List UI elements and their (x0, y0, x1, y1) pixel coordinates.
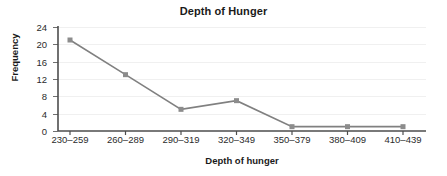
chart-figure: Depth of Hunger Frequency 04812162024 23… (0, 0, 447, 176)
x-axis-label: Depth of hunger (58, 155, 426, 166)
axes-layer (0, 0, 447, 176)
